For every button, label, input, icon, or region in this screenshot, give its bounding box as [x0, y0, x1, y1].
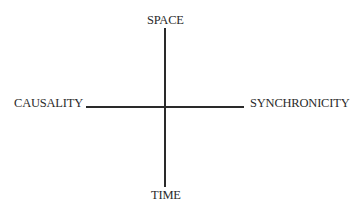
- label-synchronicity: SYNCHRONICITY: [250, 96, 350, 110]
- label-time: TIME: [151, 188, 181, 202]
- horizontal-axis-line: [86, 106, 244, 108]
- label-space: SPACE: [147, 13, 184, 27]
- label-causality: CAUSALITY: [14, 96, 83, 110]
- vertical-axis-line: [164, 28, 166, 187]
